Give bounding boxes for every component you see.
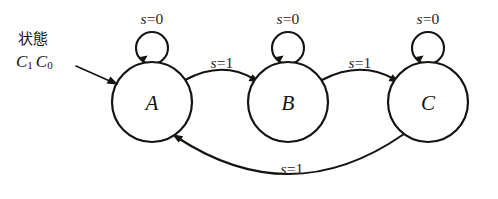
self-loop-b-circle [272,32,304,64]
annotation-symbols: C1C0 [16,52,53,72]
annotation-leader-line [76,66,112,82]
annotation-symbol-c1-sub: 1 [27,59,33,71]
self-loop-a [136,32,168,64]
transition-a-to-b [185,70,260,83]
self-loop-a-label-rest: =0 [147,10,164,27]
state-label-a: A [144,91,159,115]
self-loop-c-circle [412,32,444,64]
self-loop-b [272,32,304,64]
state-label-b: B [282,91,295,115]
self-loop-b-label: s=0 [276,10,299,27]
self-loop-c-label-rest: =0 [423,10,440,27]
self-loop-a-label: s=0 [140,10,163,27]
annotation-arrowhead [107,77,119,85]
self-loop-a-circle [136,32,168,64]
self-loop-c [412,32,444,64]
fsm-canvas: s=0 s=0 s=0 s=1 [0,0,498,199]
self-loop-b-label-rest: =0 [283,10,300,27]
self-loop-c-label: s=0 [416,10,439,27]
annotation-symbol-c0-sub: 0 [47,59,53,71]
transition-b-to-c [322,70,400,83]
state-diagram: s=0 s=0 s=0 s=1 [0,0,498,199]
annotation-symbol-c1-base: C [16,52,28,71]
transition-a-to-b-label-rest: =1 [217,54,234,71]
annotation-title: 状態 [18,30,48,48]
transition-b-to-c-path [322,70,394,80]
state-annotation-pointer [76,66,118,85]
transition-c-to-a-label: s=1 [280,160,303,177]
transition-a-to-b-label: s=1 [210,54,233,71]
transition-b-to-c-label-rest: =1 [355,54,372,71]
state-label-c: C [421,91,436,115]
annotation-symbol-c0-base: C [36,52,48,71]
transition-b-to-c-label: s=1 [348,54,371,71]
transition-c-to-a-label-rest: =1 [287,160,304,177]
transition-a-to-b-path [185,70,254,80]
